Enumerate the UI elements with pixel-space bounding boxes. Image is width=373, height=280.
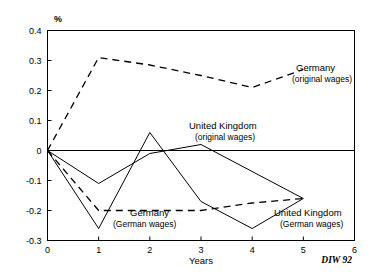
y-tick-label: 0.4	[29, 26, 42, 36]
y-tick-label: 0.3	[29, 56, 42, 66]
series-label-uk-original-line1: United Kingdom	[189, 120, 257, 131]
series-label-germany-original-line2: (original wages)	[292, 74, 352, 84]
x-tick-label: 3	[198, 245, 203, 255]
y-tick-label: -0.2	[26, 206, 42, 216]
x-tick-label: 5	[301, 245, 306, 255]
chart-credit: DIW 92	[320, 255, 352, 265]
series-label-uk-original-line2: (original wages)	[195, 132, 255, 142]
y-unit-label: %	[54, 14, 62, 24]
chart-container: 0.40.30.20.10-0.1-0.2-0.3 0123456 % Year…	[0, 0, 373, 280]
x-tick-label: 2	[147, 245, 152, 255]
x-axis: 0123456	[45, 237, 357, 255]
y-tick-label: 0	[36, 146, 41, 156]
y-tick-label: -0.1	[26, 176, 42, 186]
x-axis-title: Years	[189, 255, 213, 266]
series-line-3	[48, 133, 304, 229]
series-line-2	[48, 145, 304, 199]
x-tick-label: 0	[45, 245, 50, 255]
x-tick-label: 1	[96, 245, 101, 255]
x-tick-label: 4	[250, 245, 255, 255]
series-label-germany-german-line2: (German wages)	[113, 219, 176, 229]
data-series-group	[48, 58, 304, 229]
y-tick-label: 0.1	[29, 116, 42, 126]
y-tick-label: 0.2	[29, 86, 42, 96]
series-label-uk-german-line2: (German wages)	[280, 219, 343, 229]
series-label-germany-original-line1: Germany	[296, 62, 335, 73]
series-line-1	[48, 151, 304, 211]
x-tick-label: 6	[352, 245, 357, 255]
series-line-0	[48, 58, 304, 151]
line-chart: 0.40.30.20.10-0.1-0.2-0.3 0123456 % Year…	[0, 0, 373, 280]
y-tick-label: -0.3	[26, 236, 42, 246]
series-label-uk-german-line1: United Kingdom	[274, 207, 342, 218]
series-label-germany-german-line1: Germany	[130, 207, 169, 218]
